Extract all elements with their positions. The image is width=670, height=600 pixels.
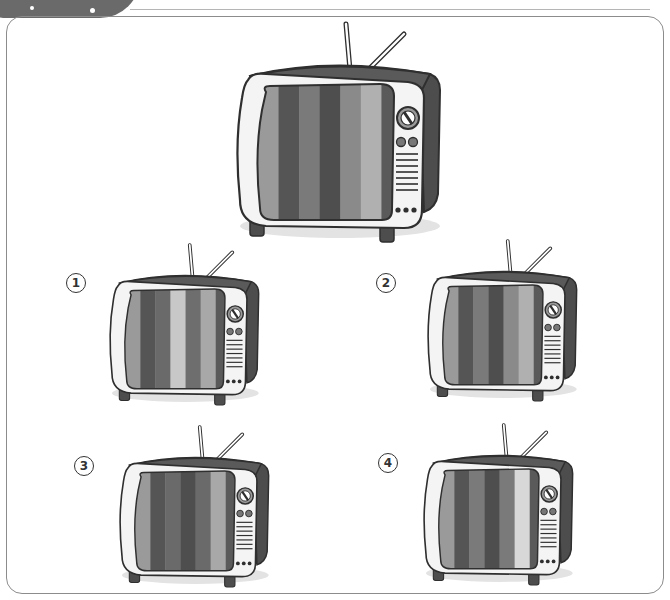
header-rule <box>130 9 650 10</box>
badge-glyph <box>90 8 95 13</box>
tv-illustration <box>100 418 276 590</box>
option-number-4: 4 <box>378 453 398 473</box>
option-number-2: 2 <box>376 273 396 293</box>
tv-illustration <box>404 416 580 588</box>
option-tv-2[interactable] <box>408 232 584 404</box>
tv-illustration <box>90 236 266 408</box>
reference-tv <box>210 14 450 244</box>
option-tv-3[interactable] <box>100 418 276 590</box>
option-tv-4[interactable] <box>404 416 580 588</box>
option-tv-1[interactable] <box>90 236 266 408</box>
option-number-1: 1 <box>66 273 86 293</box>
tv-illustration <box>210 14 450 244</box>
tv-illustration <box>408 232 584 404</box>
badge-glyph <box>30 6 34 10</box>
option-number-3: 3 <box>74 456 94 476</box>
